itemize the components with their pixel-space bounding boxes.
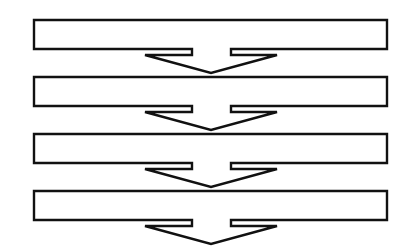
- step-box-with-down-arrow: [34, 134, 387, 187]
- process-flow-diagram: [0, 0, 406, 250]
- step-4: [34, 191, 387, 244]
- step-2: [34, 77, 387, 130]
- step-box-with-down-arrow: [34, 20, 387, 73]
- step-3: [34, 134, 387, 187]
- step-1: [34, 20, 387, 73]
- step-box-with-down-arrow: [34, 191, 387, 244]
- step-box-with-down-arrow: [34, 77, 387, 130]
